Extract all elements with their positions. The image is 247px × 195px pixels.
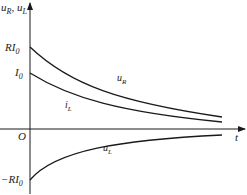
x-axis-label: t (235, 131, 239, 143)
tick-label-ri0: RI0 (4, 41, 19, 56)
curve-label-i-l: iL (65, 99, 72, 113)
origin-label: O (18, 130, 26, 142)
rl-circuit-plot: uR, uL RI0 I0 −RI0 O t uR iL uL (0, 0, 247, 195)
tick-label-i0: I0 (14, 66, 23, 81)
tick-label-neg-ri0: −RI0 (1, 173, 23, 188)
curve-label-u-r: uR (117, 72, 127, 86)
curve-label-u-l: uL (103, 142, 112, 156)
y-axis-label: uR, uL (1, 1, 27, 16)
curve-u-l (30, 135, 222, 180)
